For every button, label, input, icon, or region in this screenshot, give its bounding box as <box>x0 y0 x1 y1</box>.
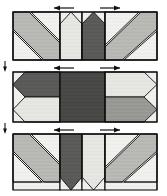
row-3-unit-3 <box>82 134 105 190</box>
row-2 <box>13 65 157 122</box>
row-2-unit-3 <box>105 72 157 122</box>
row-1 <box>13 5 157 60</box>
diagram-stage <box>0 0 167 196</box>
row-2-unit-1 <box>13 72 60 122</box>
row-1-unit-4 <box>105 12 157 60</box>
quilt-assembly-diagram <box>0 0 167 196</box>
row-1-unit-1 <box>13 12 60 60</box>
row-2-unit-2 <box>60 72 105 122</box>
row-1-unit-3 <box>82 12 105 60</box>
row-3 <box>13 127 157 190</box>
row-1-unit-2 <box>60 12 82 60</box>
row-3-unit-2 <box>60 134 82 190</box>
